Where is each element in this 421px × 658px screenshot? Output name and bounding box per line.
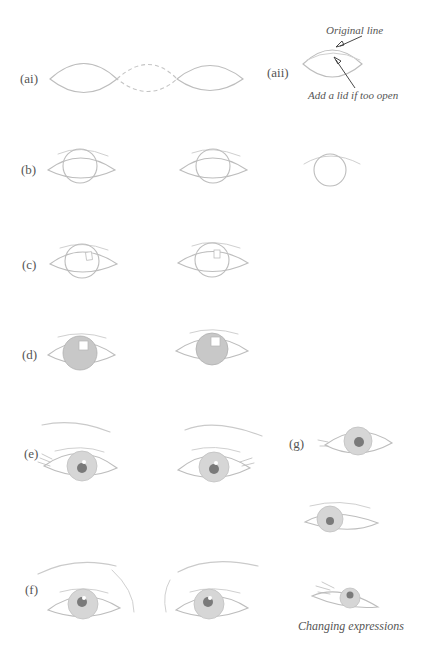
- step-label-aii: (aii): [267, 65, 289, 81]
- step-label-g: (g): [289, 436, 304, 452]
- step-d-shading: [48, 330, 248, 370]
- step-label-d: (d): [22, 347, 37, 363]
- step-label-f: (f): [25, 582, 38, 598]
- step-g-changing-expressions: [305, 427, 392, 608]
- step-c-highlights: [50, 242, 248, 278]
- step-b-iris-placement: [48, 149, 360, 186]
- step-e-lashes-brows: [38, 423, 262, 482]
- step-aii-lid-correction: [303, 36, 362, 88]
- step-f-full-expression: [38, 562, 258, 619]
- step-label-e: (e): [24, 446, 38, 462]
- step-ai-almond-shapes: [50, 64, 243, 93]
- step-label-b: (b): [21, 162, 36, 178]
- caption-changing-expressions: Changing expressions: [298, 619, 404, 634]
- annotation-original-line: Original line: [326, 24, 383, 36]
- annotation-add-lid: Add a lid if too open: [308, 89, 398, 101]
- step-label-c: (c): [22, 257, 36, 273]
- step-label-ai: (ai): [20, 71, 38, 87]
